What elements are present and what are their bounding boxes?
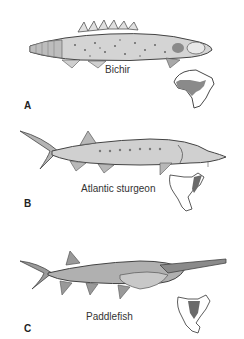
africa-range-map [170, 68, 220, 110]
panel-letter-c: C [24, 323, 31, 334]
north-america-mississippi-range-map [176, 291, 216, 335]
species-label-bichir: Bichir [105, 64, 130, 75]
north-america-east-range-map [168, 171, 208, 213]
species-label-atlantic-sturgeon: Atlantic sturgeon [81, 183, 156, 194]
panel-letter-a: A [24, 100, 31, 111]
paddlefish-illustration [0, 229, 244, 289]
panel-atlantic-sturgeon: Atlantic sturgeon B [0, 115, 244, 225]
panel-letter-b: B [24, 198, 31, 209]
species-label-paddlefish: Paddlefish [86, 311, 133, 322]
panel-bichir: Bichir A [0, 0, 244, 115]
panel-paddlefish: Paddlefish C [0, 225, 244, 339]
